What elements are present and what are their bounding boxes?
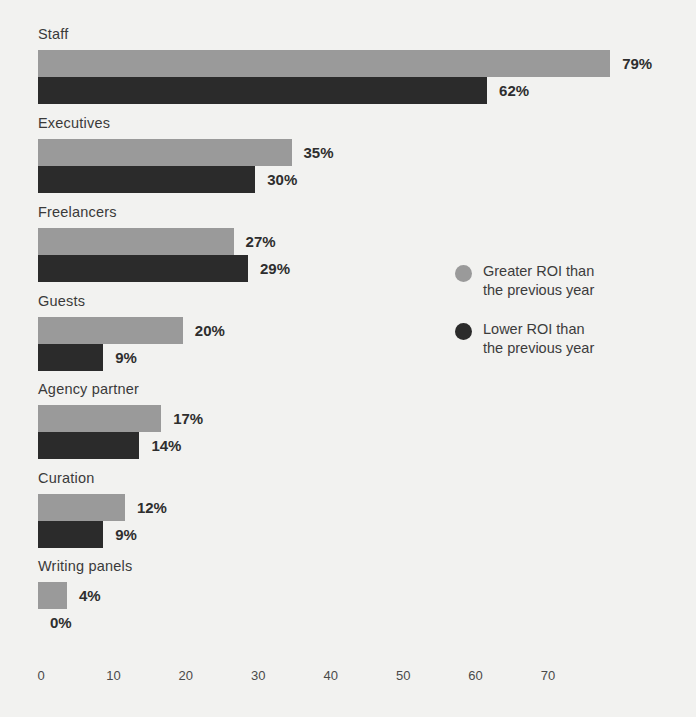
- bar-value-label: 14%: [151, 432, 181, 459]
- bar-lower-roi: [38, 521, 103, 548]
- category-label: Staff: [38, 26, 69, 42]
- bar-lower-roi: [38, 432, 139, 459]
- x-axis-tick-label: 0: [37, 668, 44, 683]
- legend-swatch-circle-icon: [455, 323, 472, 340]
- x-axis-tick-label: 60: [468, 668, 482, 683]
- legend-item[interactable]: Lower ROI thanthe previous year: [455, 320, 685, 360]
- bar-lower-roi: [38, 166, 255, 193]
- x-axis-tick-label: 50: [396, 668, 410, 683]
- x-axis-tick-label: 10: [106, 668, 120, 683]
- bar-greater-roi: [38, 494, 125, 521]
- bar-greater-roi: [38, 317, 183, 344]
- legend-label-line2: the previous year: [483, 281, 685, 300]
- category-label: Agency partner: [38, 381, 139, 397]
- bar-value-label: 35%: [304, 139, 334, 166]
- bar-value-label: 9%: [115, 344, 137, 371]
- bar-lower-roi: [38, 77, 487, 104]
- category-label: Freelancers: [38, 204, 117, 220]
- bar-value-label: 27%: [246, 228, 276, 255]
- x-axis: 010203040506070: [0, 668, 696, 698]
- category-label: Curation: [38, 470, 94, 486]
- bar-group: Executives35%30%: [0, 115, 696, 199]
- category-label: Writing panels: [38, 558, 132, 574]
- bar-group: Staff79%62%: [0, 26, 696, 110]
- bar-value-label: 0%: [50, 609, 72, 636]
- bar-value-label: 29%: [260, 255, 290, 282]
- legend-item[interactable]: Greater ROI thanthe previous year: [455, 262, 685, 302]
- bar-greater-roi: [38, 582, 67, 609]
- category-label: Guests: [38, 293, 85, 309]
- legend-swatch-circle-icon: [455, 265, 472, 282]
- bar-chart: Staff79%62%Executives35%30%Freelancers27…: [0, 0, 696, 717]
- x-axis-tick-label: 30: [251, 668, 265, 683]
- bar-value-label: 20%: [195, 317, 225, 344]
- bar-lower-roi: [38, 255, 248, 282]
- bar-value-label: 62%: [499, 77, 529, 104]
- bar-group: Agency partner17%14%: [0, 381, 696, 465]
- bar-value-label: 4%: [79, 582, 101, 609]
- chart-legend: Greater ROI thanthe previous yearLower R…: [455, 262, 685, 378]
- x-axis-tick-label: 70: [541, 668, 555, 683]
- bar-greater-roi: [38, 405, 161, 432]
- bar-value-label: 17%: [173, 405, 203, 432]
- category-label: Executives: [38, 115, 110, 131]
- legend-label-line1: Lower ROI than: [483, 320, 685, 339]
- bar-greater-roi: [38, 139, 292, 166]
- bar-value-label: 9%: [115, 521, 137, 548]
- bar-value-label: 79%: [622, 50, 652, 77]
- bar-value-label: 30%: [267, 166, 297, 193]
- bar-greater-roi: [38, 228, 234, 255]
- legend-label-line2: the previous year: [483, 339, 685, 358]
- x-axis-tick-label: 40: [323, 668, 337, 683]
- bar-group: Writing panels4%0%: [0, 558, 696, 642]
- legend-label-line1: Greater ROI than: [483, 262, 685, 281]
- bar-lower-roi: [38, 344, 103, 371]
- bar-value-label: 12%: [137, 494, 167, 521]
- x-axis-tick-label: 20: [179, 668, 193, 683]
- bar-greater-roi: [38, 50, 610, 77]
- bar-group: Curation12%9%: [0, 470, 696, 554]
